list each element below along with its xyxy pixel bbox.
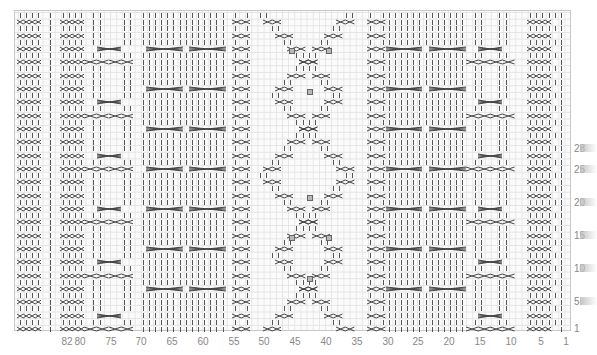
knit-stitch (235, 280, 236, 285)
knit-stitch (296, 133, 297, 138)
knit-stitch (20, 280, 21, 285)
knit-stitch (204, 240, 205, 245)
knit-stitch (549, 13, 550, 18)
knit-stitch (395, 253, 396, 258)
knit-stitch (143, 260, 144, 265)
knit-stitch (93, 240, 94, 245)
knit-stitch (432, 53, 433, 58)
knit-stitch (50, 286, 51, 291)
knit-stitch (204, 213, 205, 218)
knit-stitch (143, 26, 144, 31)
knit-stitch (389, 133, 390, 138)
knit-stitch (530, 200, 531, 205)
knit-stitch (438, 180, 439, 185)
knit-stitch (419, 173, 420, 178)
knit-stitch (130, 253, 131, 258)
knit-stitch (438, 160, 439, 165)
knit-stitch (542, 280, 543, 285)
knit-stitch (143, 60, 144, 65)
knit-stitch (167, 113, 168, 118)
bobble-icon (307, 89, 313, 95)
cable-cross-icon (17, 19, 29, 25)
bobble-icon (326, 235, 332, 241)
knit-stitch (161, 186, 162, 191)
cable-cross-icon (527, 99, 539, 105)
knit-stitch (444, 320, 445, 325)
knit-stitch (506, 213, 507, 218)
knit-stitch (389, 226, 390, 231)
knit-stitch (93, 73, 94, 78)
knit-stitch (481, 80, 482, 85)
knit-stitch (426, 193, 427, 198)
knit-stitch (173, 273, 174, 278)
knit-stitch (561, 327, 562, 332)
knit-stitch (419, 186, 420, 191)
cable-cross-icon (72, 273, 84, 279)
knit-stitch (506, 293, 507, 298)
knit-stitch (389, 273, 390, 278)
knit-stitch (38, 226, 39, 231)
knit-stitch (413, 26, 414, 31)
knit-stitch (69, 26, 70, 31)
knit-stitch (155, 160, 156, 165)
knit-stitch (180, 33, 181, 38)
knit-stitch (20, 160, 21, 165)
knit-stitch (401, 293, 402, 298)
knit-stitch (235, 13, 236, 18)
knit-stitch (216, 253, 217, 258)
knit-stitch (130, 226, 131, 231)
knit-stitch (395, 113, 396, 118)
knit-stitch (315, 293, 316, 298)
knit-stitch (198, 106, 199, 111)
knit-stitch (561, 286, 562, 291)
knit-stitch (143, 53, 144, 58)
knit-stitch (155, 300, 156, 305)
knit-stitch (419, 13, 420, 18)
cable-cross-icon (29, 206, 41, 212)
knit-stitch (481, 186, 482, 191)
knit-stitch (432, 193, 433, 198)
knit-stitch (499, 106, 500, 111)
knit-stitch (26, 226, 27, 231)
knit-stitch (284, 106, 285, 111)
knit-stitch (321, 266, 322, 271)
cable-cross-icon (72, 139, 84, 145)
cable-cross-icon (527, 86, 539, 92)
knit-stitch (438, 306, 439, 311)
knit-stitch (401, 93, 402, 98)
knit-stitch (204, 200, 205, 205)
knit-stitch (389, 153, 390, 158)
knit-stitch (499, 240, 500, 245)
knit-stitch (389, 146, 390, 151)
knit-stitch (481, 246, 482, 251)
knit-stitch (81, 53, 82, 58)
knit-stitch (186, 26, 187, 31)
knit-stitch (149, 20, 150, 25)
knit-stitch (506, 133, 507, 138)
knit-stitch (223, 133, 224, 138)
knit-stitch (370, 213, 371, 218)
knit-stitch (69, 266, 70, 271)
cable-cross-icon (84, 219, 109, 225)
knit-stitch (93, 120, 94, 125)
column-label: 80 (74, 336, 85, 347)
cable-cross-icon (539, 113, 551, 119)
knit-stitch (38, 13, 39, 18)
knit-stitch (333, 320, 334, 325)
knit-stitch (155, 327, 156, 332)
knit-stitch (413, 233, 414, 238)
knit-stitch (149, 253, 150, 258)
knit-stitch (50, 246, 51, 251)
knit-stitch (149, 106, 150, 111)
knit-stitch (149, 233, 150, 238)
knit-stitch (383, 66, 384, 71)
knit-stitch (450, 280, 451, 285)
knit-stitch (370, 93, 371, 98)
knit-stitch (50, 300, 51, 305)
knit-stitch (186, 153, 187, 158)
knit-stitch (555, 293, 556, 298)
knit-stitch (462, 93, 463, 98)
knit-stitch (167, 233, 168, 238)
knit-stitch (155, 173, 156, 178)
cable-cross-icon (539, 246, 551, 252)
